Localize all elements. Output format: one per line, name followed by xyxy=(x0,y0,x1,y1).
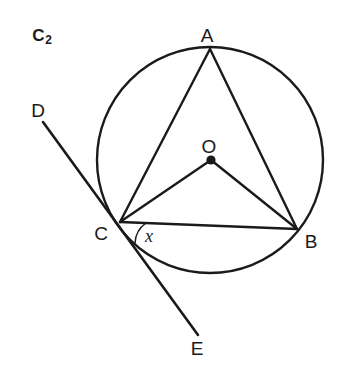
tangent-endpoint-label-e: E xyxy=(191,339,204,358)
angle-label-x: x xyxy=(145,227,153,245)
tangent-line-de xyxy=(43,122,198,335)
radius-oc xyxy=(120,160,211,222)
circle-geometry-figure xyxy=(0,0,346,371)
radius-ob xyxy=(211,160,297,229)
figure-id-letter: C xyxy=(32,26,44,45)
figure-id-subscript: 2 xyxy=(45,33,52,47)
vertex-label-c: C xyxy=(94,224,108,243)
center-label-o: O xyxy=(202,137,217,156)
vertex-label-b: B xyxy=(305,232,318,251)
diagram-canvas: C2 A B C O D E x xyxy=(0,0,346,371)
vertex-label-a: A xyxy=(201,26,214,45)
figure-id-label: C2 xyxy=(32,27,51,44)
tangent-endpoint-label-d: D xyxy=(31,101,45,120)
center-point-dot xyxy=(206,155,215,164)
chord-ac xyxy=(120,49,210,222)
